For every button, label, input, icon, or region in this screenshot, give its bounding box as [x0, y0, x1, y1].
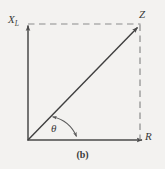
figure-caption: (b): [0, 150, 165, 160]
angle-label: θ: [51, 123, 56, 134]
vertical-axis-label-text: X: [8, 13, 15, 25]
vertical-axis-label: XL: [8, 14, 19, 28]
phasor-diagram-svg: [0, 0, 165, 169]
impedance-vector-z: [28, 28, 137, 140]
resultant-vector-label: Z: [139, 9, 145, 20]
horizontal-axis-label: R: [145, 131, 152, 142]
phasor-diagram-figure: XL Z R θ (b): [0, 0, 165, 169]
vertical-axis-label-subscript: L: [15, 19, 19, 28]
